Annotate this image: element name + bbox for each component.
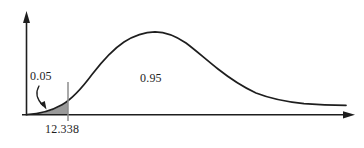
density-curve	[27, 32, 346, 115]
x-axis-arrowhead	[343, 111, 355, 118]
body-area-label: 0.95	[140, 72, 162, 84]
tail-area-label: 0.05	[30, 70, 52, 82]
y-axis-arrowhead	[23, 11, 30, 23]
critical-value-label: 12.338	[45, 123, 79, 135]
distribution-figure: 0.05 0.95 12.338	[0, 0, 364, 148]
shaded-tail-region	[27, 100, 68, 114]
